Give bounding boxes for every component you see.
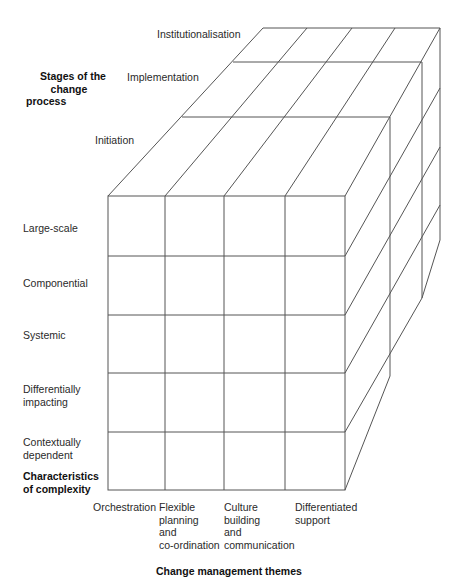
title-line: Characteristics xyxy=(23,470,99,483)
stages-title-line: process xyxy=(26,95,106,108)
complexity-differentially-impacting: Differentially impacting xyxy=(23,383,81,408)
theme-orchestration: Orchestration xyxy=(93,501,156,514)
stage-initiation: Initiation xyxy=(95,134,134,147)
label-line: Flexible xyxy=(159,501,220,514)
complexity-axis-title: Characteristics of complexity xyxy=(23,470,99,495)
theme-flexible-planning: Flexible planning and co-ordination xyxy=(159,501,220,551)
stages-title-line: change xyxy=(26,83,106,96)
stages-axis-title: Stages of the change process xyxy=(26,70,106,108)
stages-title-line: Stages of the xyxy=(26,70,106,83)
themes-axis-title: Change management themes xyxy=(156,565,302,577)
label-line: building xyxy=(224,514,295,527)
label-line: impacting xyxy=(23,396,81,409)
theme-differentiated-support: Differentiated support xyxy=(295,501,357,526)
label-line: Differentiated xyxy=(295,501,357,514)
label-line: and xyxy=(224,526,295,539)
label-line: Culture xyxy=(224,501,295,514)
label-line: dependent xyxy=(23,449,81,462)
theme-culture-building: Culture building and communication xyxy=(224,501,295,551)
stage-implementation: Implementation xyxy=(127,71,199,84)
label-line: Differentially xyxy=(23,383,81,396)
complexity-large-scale: Large-scale xyxy=(23,222,78,235)
complexity-contextually-dependent: Contextually dependent xyxy=(23,436,81,461)
label-line: Contextually xyxy=(23,436,81,449)
complexity-systemic: Systemic xyxy=(23,329,66,342)
title-line: of complexity xyxy=(23,483,99,496)
label-line: communication xyxy=(224,539,295,552)
label-line: and xyxy=(159,526,220,539)
label-line: co-ordination xyxy=(159,539,220,552)
complexity-componential: Componential xyxy=(23,277,88,290)
stage-institutionalisation: Institutionalisation xyxy=(157,28,240,41)
label-line: planning xyxy=(159,514,220,527)
label-line: support xyxy=(295,514,357,527)
